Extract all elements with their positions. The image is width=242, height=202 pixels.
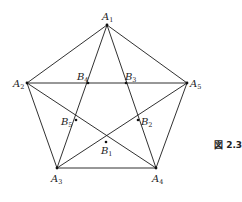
diag-a1-a4 [107,25,156,168]
point-a1 [106,24,109,27]
point-a5 [186,82,189,85]
vertex-labels: A1 A2 A3 A4 A5 [12,11,201,186]
edge-a1-a2 [27,25,107,83]
label-a5: A5 [189,78,201,91]
point-b5 [75,119,78,122]
label-a1: A1 [101,11,113,24]
point-b3 [125,82,128,85]
label-b5: B5 [60,116,73,129]
diag-a2-a4 [27,83,156,168]
label-a2: A2 [12,78,24,91]
figure-caption: 図 2.3 [214,140,242,150]
edge-a2-a3 [27,83,57,168]
label-a4: A4 [151,173,163,186]
point-b1 [105,141,108,144]
point-a4 [155,167,158,170]
label-a3: A3 [50,173,62,186]
label-b1: B1 [100,145,113,158]
point-a3 [56,167,59,170]
label-b4: B4 [76,71,89,84]
point-a2 [26,82,29,85]
point-b2 [137,119,140,122]
edge-a5-a1 [107,25,187,83]
diag-a1-a3 [57,25,107,168]
diag-a3-a5 [57,83,187,168]
edge-a4-a5 [156,83,187,168]
pentagram-diagram: A1 A2 A3 A4 A5 B1 B2 B3 B4 B5 図 2.3 [0,0,242,202]
